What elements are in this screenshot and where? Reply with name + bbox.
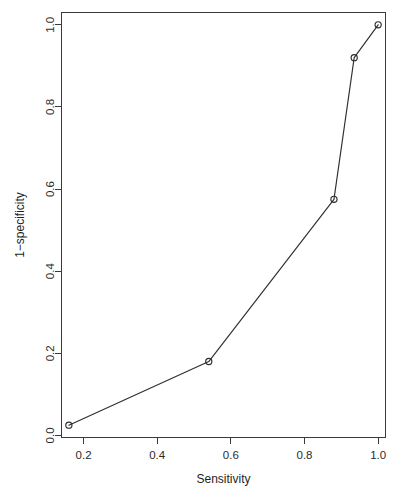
data-point-group: [66, 22, 381, 429]
y-tick-label: 0.2: [45, 345, 57, 361]
y-tick-label: 1.0: [45, 17, 57, 33]
x-tick-label: 0.4: [149, 449, 166, 461]
y-axis-title: 1−specificity: [13, 192, 27, 258]
x-tick-label: 1.0: [370, 449, 386, 461]
y-tick-label: 0.6: [45, 181, 57, 197]
x-axis-title: Sensitivity: [196, 472, 250, 486]
x-tick-label: 0.2: [76, 449, 92, 461]
y-tick-label: 0.4: [45, 263, 57, 280]
plot-frame: [62, 13, 386, 438]
y-axis: 0.00.20.40.60.81.0: [45, 17, 62, 444]
chart-canvas: 0.20.40.60.81.00.00.20.40.60.81.0Sensiti…: [0, 0, 400, 501]
x-tick-label: 0.6: [223, 449, 239, 461]
x-axis: 0.20.40.60.81.0: [76, 438, 387, 461]
roc-chart-figure: 0.20.40.60.81.00.00.20.40.60.81.0Sensiti…: [0, 0, 400, 501]
y-tick-label: 0.0: [45, 427, 57, 443]
roc-curve-line: [69, 25, 378, 425]
x-tick-label: 0.8: [297, 449, 313, 461]
y-tick-label: 0.8: [45, 99, 57, 115]
